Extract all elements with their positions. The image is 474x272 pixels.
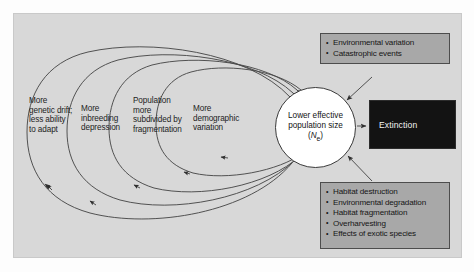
extinction-label: Extinction — [370, 120, 417, 130]
return-arrowhead-3 — [134, 185, 140, 188]
arrow-top-box-to-circle — [347, 77, 372, 100]
vortex-loop-1-arrowhead — [45, 184, 60, 197]
vortex-label-inbreeding-depression: More inbreeding depression — [81, 104, 125, 133]
return-arrowhead-2 — [90, 201, 96, 205]
stochastic-factors-box: Environmental variation Catastrophic eve… — [320, 33, 450, 64]
list-item: Habitat destruction — [326, 187, 443, 198]
extinction-outcome-box: Extinction — [369, 100, 456, 149]
core-line-2: population size — [288, 121, 343, 130]
stochastic-factors-list: Environmental variation Catastrophic eve… — [326, 38, 443, 59]
vortex-label-genetic-drift: More genetic drift; less ability to adap… — [29, 96, 73, 135]
return-arrowhead-4 — [184, 172, 190, 174]
core-node-lower-effective-population-size: Lower effective population size (Ne) — [275, 87, 356, 168]
list-item: Environmental variation — [326, 38, 443, 49]
list-item: Overharvesting — [326, 219, 443, 230]
vortex-label-population-subdivided: Population more subdivided by fragmentat… — [133, 96, 185, 135]
vortex-label-demographic-variation: More demographic variation — [193, 104, 241, 133]
return-arrowhead-5 — [221, 157, 228, 158]
list-item: Effects of exotic species — [326, 229, 443, 240]
list-item: Environmental degradation — [326, 198, 443, 209]
human-impact-factors-box: Habitat destruction Environmental degrad… — [320, 182, 450, 249]
core-node-text: Lower effective population size (Ne) — [279, 111, 353, 144]
core-line-1: Lower effective — [288, 111, 343, 120]
list-item: Habitat fragmentation — [326, 208, 443, 219]
extinction-vortex-figure: More genetic drift; less ability to adap… — [0, 0, 474, 272]
core-symbol: (Ne) — [308, 131, 323, 140]
list-item: Catastrophic events — [326, 49, 443, 60]
human-impact-factors-list: Habitat destruction Environmental degrad… — [326, 187, 443, 240]
arrow-bottom-box-to-circle — [348, 156, 372, 181]
